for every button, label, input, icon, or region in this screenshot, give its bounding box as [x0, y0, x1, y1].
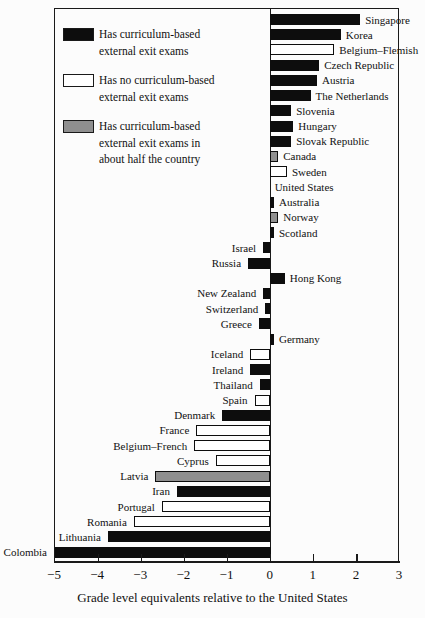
country-label: Hungary: [298, 121, 337, 132]
bar-row-hong-kong: Hong Kong: [55, 273, 398, 284]
bar-yes-russia: [248, 258, 270, 269]
x-axis-tick: [356, 554, 357, 561]
bar-yes-greece: [259, 318, 270, 329]
bar-yes-slovenia: [270, 105, 292, 116]
x-axis-tick: [98, 554, 99, 561]
bar-yes-iran: [177, 486, 270, 497]
country-label: Latvia: [120, 471, 148, 482]
bar-row-israel: Israel: [55, 242, 398, 253]
bar-row-iran: Iran: [55, 486, 398, 497]
x-axis-tick-label: −2: [176, 568, 190, 582]
bar-row-scotland: Scotland: [55, 227, 398, 238]
bar-yes-hong-kong: [270, 273, 285, 284]
bar-row-portugal: Portugal: [55, 501, 398, 512]
x-axis-tick: [270, 554, 271, 561]
x-axis-tick-label: 2: [353, 568, 360, 582]
bar-no-cyprus: [216, 455, 270, 466]
bar-row-australia: Australia: [55, 197, 398, 208]
country-label: Ireland: [212, 364, 243, 375]
country-label: Switzerland: [206, 303, 259, 314]
bar-no-romania: [134, 516, 270, 527]
bar-no-portugal: [162, 501, 270, 512]
bar-row-the-netherlands: The Netherlands: [55, 90, 398, 101]
x-axis-tick-label: −5: [47, 568, 61, 582]
bar-row-germany: Germany: [55, 334, 398, 345]
country-label: Sweden: [292, 166, 327, 177]
country-label: Belgium–French: [113, 440, 187, 451]
country-label: Belgium–Flemish: [339, 44, 418, 55]
bar-row-austria: Austria: [55, 75, 398, 86]
bar-yes-singapore: [270, 14, 361, 25]
x-axis-tick: [184, 554, 185, 561]
x-axis-line: [54, 561, 400, 563]
country-label: Colombia: [4, 547, 47, 558]
country-label: Slovak Republic: [296, 136, 369, 147]
bar-row-france: France: [55, 425, 398, 436]
country-label: Slovenia: [296, 105, 335, 116]
country-label: Denmark: [174, 410, 215, 421]
bar-row-korea: Korea: [55, 29, 398, 40]
country-label: Iceland: [211, 349, 243, 360]
x-axis-title: Grade level equivalents relative to the …: [0, 590, 425, 606]
country-label: United States: [275, 181, 334, 192]
x-axis-tick-label: 3: [396, 568, 403, 582]
country-label: Korea: [346, 29, 373, 40]
bar-row-romania: Romania: [55, 516, 398, 527]
bar-yes-thailand: [260, 379, 270, 390]
bar-no-iceland: [250, 349, 269, 360]
country-label: New Zealand: [197, 288, 256, 299]
country-label: Canada: [283, 151, 316, 162]
bar-yes-the-netherlands: [270, 90, 311, 101]
country-label: Czech Republic: [324, 60, 394, 71]
bar-half-norway: [270, 212, 279, 223]
plot-area: Has curriculum-basedexternal exit examsH…: [54, 8, 399, 561]
country-label: Lithuania: [59, 531, 101, 542]
country-label: Austria: [322, 75, 354, 86]
bar-yes-czech-republic: [270, 60, 320, 71]
bar-yes-germany: [270, 334, 274, 345]
bar-no-sweden: [270, 166, 287, 177]
bar-row-denmark: Denmark: [55, 410, 398, 421]
bar-no-spain: [255, 395, 270, 406]
bar-row-lithuania: Lithuania: [55, 531, 398, 542]
bar-row-iceland: Iceland: [55, 349, 398, 360]
bar-yes-scotland: [270, 227, 274, 238]
country-label: The Netherlands: [316, 90, 389, 101]
bar-row-hungary: Hungary: [55, 121, 398, 132]
bar-row-belgium-flemish: Belgium–Flemish: [55, 44, 398, 55]
bar-row-norway: Norway: [55, 212, 398, 223]
country-label: Spain: [222, 395, 247, 406]
x-axis-tick-label: −3: [133, 568, 147, 582]
bar-yes-switzerland: [265, 303, 269, 314]
bar-yes-colombia: [55, 547, 271, 558]
x-axis-tick-label: 1: [310, 568, 317, 582]
x-axis-tick: [141, 554, 142, 561]
x-axis-tick: [313, 554, 314, 561]
bar-row-czech-republic: Czech Republic: [55, 60, 398, 71]
x-axis-tick: [227, 554, 228, 561]
bar-no-belgium-flemish: [270, 44, 335, 55]
bar-row-ireland: Ireland: [55, 364, 398, 375]
country-label: Russia: [212, 258, 241, 269]
country-label: Singapore: [365, 14, 410, 25]
bar-yes-slovak-republic: [270, 136, 292, 147]
country-label: Romania: [87, 516, 127, 527]
bar-row-switzerland: Switzerland: [55, 303, 398, 314]
bar-yes-lithuania: [108, 531, 270, 542]
country-label: Hong Kong: [290, 273, 342, 284]
bar-row-new-zealand: New Zealand: [55, 288, 398, 299]
country-label: Scotland: [279, 227, 318, 238]
bar-no-belgium-french: [194, 440, 269, 451]
bar-row-united-states: United States: [55, 181, 398, 192]
country-label: Norway: [283, 212, 318, 223]
bar-half-canada: [270, 151, 279, 162]
bar-yes-new-zealand: [263, 288, 269, 299]
bar-no-france: [196, 425, 269, 436]
bar-row-spain: Spain: [55, 395, 398, 406]
bar-row-singapore: Singapore: [55, 14, 398, 25]
x-axis-tick-label: −4: [90, 568, 104, 582]
bar-row-sweden: Sweden: [55, 166, 398, 177]
bar-yes-austria: [270, 75, 317, 86]
x-axis-tick-label: −1: [220, 568, 234, 582]
country-label: Thailand: [214, 379, 253, 390]
